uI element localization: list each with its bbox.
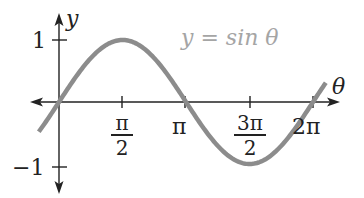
chart-title: y = sin θ	[181, 25, 279, 50]
x-tick-label-two-pi: 2π	[292, 114, 320, 139]
y-axis-label: y	[66, 6, 78, 31]
denominator: 2	[234, 138, 266, 158]
y-tick-label-1: 1	[32, 28, 46, 53]
numerator: 3π	[234, 113, 266, 133]
x-tick-label-pi: π	[172, 114, 186, 139]
denominator: 2	[111, 138, 133, 158]
numerator: π	[111, 113, 133, 133]
y-tick-label-neg1: −1	[12, 155, 44, 180]
x-tick-label-three-pi-half: 3π 2	[234, 113, 266, 158]
x-axis-label: θ	[332, 74, 345, 99]
x-tick-label-pi-half: π 2	[111, 113, 133, 158]
